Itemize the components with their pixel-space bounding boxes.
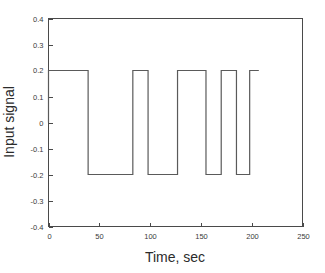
x-tick-label: 250 — [297, 232, 310, 241]
chart-plot: -0.4-0.3-0.2-0.100.10.20.30.4 0501001502… — [0, 0, 325, 273]
y-tick-label: 0.4 — [33, 15, 43, 24]
y-axis-title: Input signal — [1, 86, 17, 158]
y-tick-label: 0.3 — [33, 41, 43, 50]
y-tick-label: 0 — [39, 119, 43, 128]
x-tick-label: 0 — [47, 232, 51, 241]
figure-container: -0.4-0.3-0.2-0.100.10.20.30.4 0501001502… — [0, 0, 325, 273]
y-tick-label: -0.1 — [31, 145, 44, 154]
y-tick-label: 0.1 — [33, 93, 43, 102]
y-tick-label: 0.2 — [33, 66, 43, 75]
y-tick-label: -0.3 — [31, 197, 44, 206]
x-tick-label: 50 — [95, 232, 103, 241]
x-axis-title: Time, sec — [145, 249, 205, 265]
y-tick-label: -0.2 — [31, 171, 44, 180]
x-tick-label: 100 — [144, 232, 157, 241]
x-tick-label: 150 — [195, 232, 208, 241]
x-tick-label: 200 — [246, 232, 259, 241]
y-tick-label: -0.4 — [31, 223, 44, 232]
